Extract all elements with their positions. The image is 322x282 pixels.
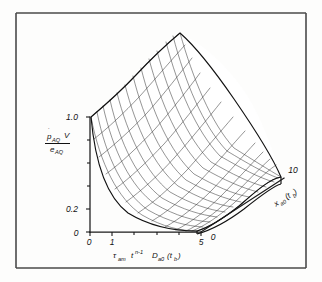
- y-axis-denominator-sub: AQ: [54, 149, 64, 155]
- y-tick-label-2: 0.2: [66, 204, 78, 214]
- y-axis-numerator-sub: AQ: [51, 137, 61, 143]
- x-axis-title: τ am t n-1 D a0 (t b ): [113, 249, 181, 262]
- x-axis-t-symbol: t: [131, 251, 134, 260]
- x-tick-label-2: 1: [110, 237, 115, 247]
- x-axis-t-exponent: n-1: [135, 249, 143, 255]
- y-axis-title: ˙ p AQ V e AQ: [45, 127, 70, 155]
- x-tick-label-3: 5: [199, 237, 204, 247]
- x-axis-tau-symbol: τ: [113, 251, 117, 260]
- x-axis-tb-open: (t: [167, 251, 173, 260]
- depth-tick-label-0: 0: [211, 232, 216, 242]
- depth-axis-title: x a0 (t b ): [271, 187, 299, 211]
- surface-plot-svg: 1.0 0.2 0 0 1 5 0 10 ˙ p AQ V e AQ τ am …: [0, 0, 322, 282]
- x-tick-label-1: 0: [87, 237, 92, 247]
- figure-container: 1.0 0.2 0 0 1 5 0 10 ˙ p AQ V e AQ τ am …: [0, 0, 322, 282]
- x-axis-tau-subscript: am: [118, 256, 126, 262]
- x-axis-tb-close: ): [177, 251, 181, 260]
- y-tick-label-3: 0: [74, 228, 79, 238]
- surface-body: [91, 33, 281, 231]
- y-axis-numerator-tail: V: [64, 131, 70, 140]
- x-axis-D-subscript: a0: [158, 256, 165, 262]
- depth-tick-label-10: 10: [288, 165, 298, 175]
- surface-shaded-region: [91, 33, 281, 231]
- y-tick-label-1: 1.0: [66, 112, 78, 122]
- x-axis-tb-subscript: b: [174, 256, 177, 262]
